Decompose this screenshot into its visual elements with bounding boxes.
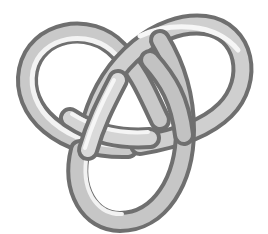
trefoil-knot-graphic: [0, 0, 268, 234]
trefoil-knot-image: [0, 0, 268, 234]
